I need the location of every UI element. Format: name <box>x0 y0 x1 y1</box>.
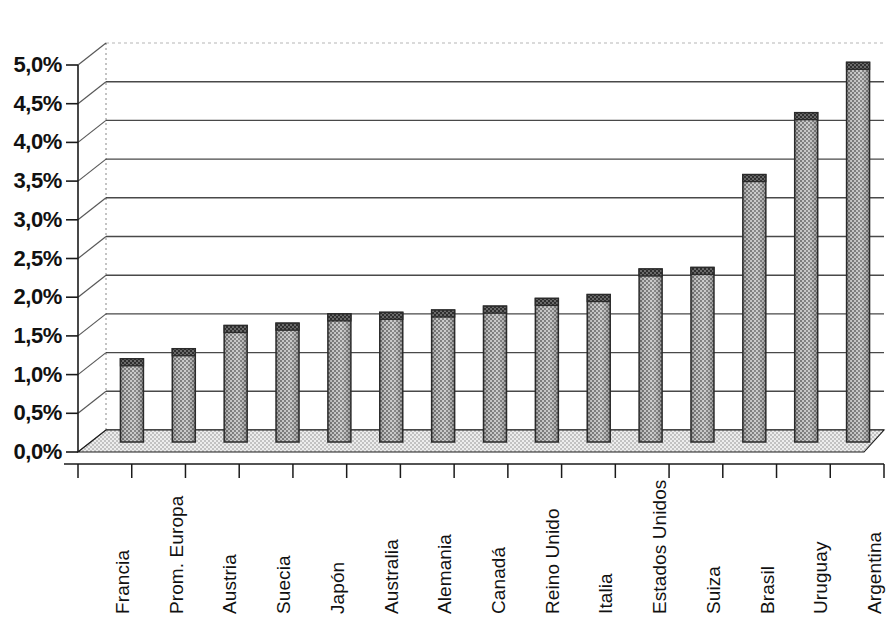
bar-uruguay <box>795 113 818 442</box>
bar-argentina <box>847 62 870 442</box>
bar-chart: 0,0%0,5%1,0%1,5%2,0%2,5%3,0%3,5%4,0%4,5%… <box>0 0 889 618</box>
bar-suecia <box>276 323 299 442</box>
bar-francia <box>120 359 143 442</box>
bar-suiza <box>691 267 714 442</box>
bar-cap <box>380 312 403 319</box>
bar-italia <box>587 295 610 442</box>
bar-alemania <box>432 310 455 442</box>
bar-reino-unido <box>535 298 558 442</box>
bar-cap <box>535 298 558 305</box>
bar-canad- <box>484 306 507 442</box>
bar-austria <box>224 326 247 442</box>
bars-group <box>120 62 869 442</box>
bar-cap <box>484 306 507 313</box>
bar-cap <box>639 269 662 276</box>
bar-cap <box>743 175 766 182</box>
bar-brasil <box>743 175 766 442</box>
bar-cap <box>691 267 714 274</box>
bar-jap-n <box>328 314 351 442</box>
bar-cap <box>432 310 455 317</box>
bar-estados-unidos <box>639 269 662 442</box>
bar-prom-europa <box>172 349 195 442</box>
bar-australia <box>380 312 403 442</box>
plot-area <box>0 0 889 618</box>
bar-cap <box>587 295 610 302</box>
bar-cap <box>847 62 870 69</box>
bar-cap <box>120 359 143 366</box>
bar-cap <box>276 323 299 330</box>
bar-cap <box>795 113 818 120</box>
bar-cap <box>224 326 247 333</box>
bar-cap <box>328 314 351 321</box>
bar-cap <box>172 349 195 356</box>
